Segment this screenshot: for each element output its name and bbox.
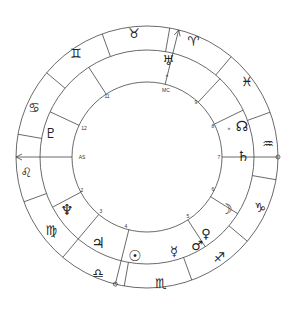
gemini-sign-icon: ♊︎ [70, 46, 82, 61]
capricorn-sign-icon: ♑︎ [254, 200, 266, 215]
zodiac-divider [124, 262, 128, 286]
node-dot: » [228, 125, 231, 131]
sun-planet-icon: ☉︎ [128, 247, 141, 265]
venus-planet-icon: ♀︎ [201, 226, 211, 241]
house-label-7: 7 [218, 154, 221, 160]
scorpio-sign-icon: ♏︎ [155, 276, 167, 291]
house-label-9: 9 [195, 99, 198, 105]
house-cusp-line [198, 79, 220, 102]
virgo-sign-icon: ♍︎ [45, 223, 57, 238]
house-label-2: 2 [81, 187, 84, 193]
zodiac-divider [18, 134, 42, 138]
aries-sign-icon: ♈︎ [187, 34, 199, 49]
zodiac-divider [184, 258, 192, 281]
house-cusp-line [89, 67, 106, 94]
uranus-planet-icon: ♅︎ [162, 53, 174, 68]
zodiac-divider [229, 226, 247, 241]
cancer-sign-icon: ♋︎ [28, 100, 40, 115]
zodiac-divider [248, 112, 271, 120]
aquarius-sign-icon: ♒︎ [262, 136, 274, 151]
house-label-11: 11 [104, 93, 109, 99]
house-label-6: 6 [212, 186, 215, 192]
house-labels: AS1211MC98765432 [79, 87, 221, 229]
house-label-12: 12 [81, 125, 87, 131]
neptune-planet-icon: ♆︎ [60, 201, 73, 219]
house-label-8: 8 [212, 123, 215, 129]
zodiac-divider [216, 57, 231, 75]
leo-sign-icon: ♌︎ [20, 165, 32, 180]
node-planet-icon: ☊︎ [236, 118, 248, 134]
uranus-dot: » [166, 72, 169, 78]
astrology-chart: ♈︎♉︎♊︎♋︎♌︎♍︎♎︎♏︎♐︎♑︎♒︎♓︎ AS1211MC9876543… [0, 0, 295, 310]
zodiac-divider [252, 176, 276, 180]
sagittarius-sign-icon: ♐︎ [213, 250, 225, 265]
jupiter-planet-icon: ♃︎ [91, 234, 104, 252]
zodiac-divider [24, 194, 47, 202]
imum-coeli-axis [115, 230, 129, 284]
house-label-4: 4 [125, 223, 128, 229]
pisces-sign-icon: ♓︎ [241, 74, 253, 89]
zodiac-divider [102, 34, 110, 57]
zodiac-divider [166, 28, 170, 52]
house-ring [72, 82, 222, 232]
moon-planet-icon: ☽︎ [220, 201, 233, 217]
house-label-as: AS [79, 154, 86, 160]
saturn-planet-icon: ♄︎ [237, 148, 250, 164]
zodiac-divider [47, 73, 65, 88]
taurus-sign-icon: ♉︎ [128, 26, 140, 41]
pluto-planet-icon: ♇︎ [45, 125, 58, 141]
zodiac-divider [63, 239, 78, 257]
mercury-planet-icon: ☿︎ [170, 244, 178, 259]
libra-sign-icon: ♎︎ [92, 266, 104, 281]
house-cusp-line [50, 112, 79, 126]
house-label-mc: MC [162, 87, 170, 93]
house-label-3: 3 [100, 208, 103, 214]
house-label-5: 5 [187, 213, 190, 219]
